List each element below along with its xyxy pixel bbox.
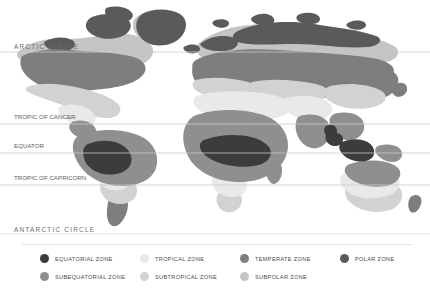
legend-label-subequatorial-zone: SUBEQUATORIAL ZONE — [55, 274, 125, 280]
legend-label-equatorial-zone: EQUATORIAL ZONE — [55, 256, 113, 262]
legend-item-subpolar-zone: SUBPOLAR ZONE — [240, 272, 307, 281]
map-area: ARCTIC CIRCLE TROPIC OF CANCER EQUATOR T… — [0, 0, 430, 242]
legend-swatch-subequatorial-zone — [40, 272, 49, 281]
label-antarctic-circle: ANTARCTIC CIRCLE — [14, 226, 95, 233]
legend-label-subpolar-zone: SUBPOLAR ZONE — [255, 274, 307, 280]
label-tropic-of-capricorn: TROPIC OF CAPRICORN — [14, 174, 87, 181]
legend-label-tropical-zone: TROPICAL ZONE — [155, 256, 204, 262]
legend-item-temperate-zone: TEMPERATE ZONE — [240, 254, 311, 263]
legend-label-polar-zone: POLAR ZONE — [355, 256, 395, 262]
legend-label-subtropical-zone: SUBTROPICAL ZONE — [155, 274, 217, 280]
legend-swatch-tropical-zone — [140, 254, 149, 263]
world-map-graphic — [0, 0, 430, 242]
legend-divider — [22, 244, 412, 245]
legend-item-tropical-zone: TROPICAL ZONE — [140, 254, 204, 263]
label-equator: EQUATOR — [14, 142, 44, 149]
label-arctic-circle: ARCTIC CIRCLE — [14, 43, 79, 50]
label-tropic-of-cancer: TROPIC OF CANCER — [14, 113, 76, 120]
legend-item-polar-zone: POLAR ZONE — [340, 254, 395, 263]
legend-item-subequatorial-zone: SUBEQUATORIAL ZONE — [40, 272, 125, 281]
legend-swatch-subtropical-zone — [140, 272, 149, 281]
legend-swatch-subpolar-zone — [240, 272, 249, 281]
legend-swatch-equatorial-zone — [40, 254, 49, 263]
legend-item-equatorial-zone: EQUATORIAL ZONE — [40, 254, 113, 263]
legend: EQUATORIAL ZONE TROPICAL ZONE TEMPERATE … — [0, 250, 430, 297]
legend-swatch-temperate-zone — [240, 254, 249, 263]
legend-swatch-polar-zone — [340, 254, 349, 263]
legend-label-temperate-zone: TEMPERATE ZONE — [255, 256, 311, 262]
world-climate-zones-infographic: ARCTIC CIRCLE TROPIC OF CANCER EQUATOR T… — [0, 0, 430, 297]
legend-item-subtropical-zone: SUBTROPICAL ZONE — [140, 272, 217, 281]
